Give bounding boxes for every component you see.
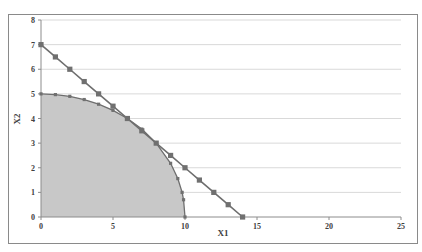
y-axis-title: X2 xyxy=(12,113,22,124)
data-marker xyxy=(96,91,101,96)
data-marker xyxy=(168,153,173,158)
y-tick-label: 6 xyxy=(31,65,35,74)
y-tick-label: 5 xyxy=(31,90,35,99)
y-tick-label: 2 xyxy=(31,164,35,173)
data-marker xyxy=(67,67,72,72)
x-axis-title: X1 xyxy=(218,228,229,238)
data-marker xyxy=(82,79,87,84)
x-tick-label: 20 xyxy=(325,222,333,231)
y-tick-label: 7 xyxy=(31,41,35,50)
data-marker xyxy=(139,128,144,133)
data-marker xyxy=(182,165,187,170)
chart: 0123456780510152025 X1 X2 xyxy=(0,0,422,252)
data-marker xyxy=(182,198,185,201)
x-tick-label: 5 xyxy=(111,222,115,231)
data-marker xyxy=(110,104,115,109)
data-marker xyxy=(181,191,184,194)
data-marker xyxy=(197,177,202,182)
data-marker xyxy=(226,202,231,207)
y-tick-label: 1 xyxy=(31,188,35,197)
data-marker xyxy=(54,93,57,96)
x-tick-label: 25 xyxy=(397,222,405,231)
data-marker xyxy=(68,95,71,98)
y-tick-label: 4 xyxy=(31,115,35,124)
data-marker xyxy=(240,214,245,219)
x-tick-label: 0 xyxy=(39,222,43,231)
data-marker xyxy=(211,190,216,195)
data-marker xyxy=(169,162,172,165)
data-marker xyxy=(39,92,42,95)
data-marker xyxy=(38,42,43,47)
data-marker xyxy=(125,116,130,121)
data-marker xyxy=(183,215,186,218)
data-marker xyxy=(53,54,58,59)
data-marker xyxy=(97,103,100,106)
data-marker xyxy=(154,141,159,146)
y-tick-label: 3 xyxy=(31,139,35,148)
y-tick-label: 0 xyxy=(31,213,35,222)
y-tick-label: 8 xyxy=(31,16,35,25)
data-marker xyxy=(83,98,86,101)
x-tick-label: 10 xyxy=(181,222,189,231)
x-tick-label: 15 xyxy=(253,222,261,231)
data-marker xyxy=(111,109,114,112)
data-marker xyxy=(176,177,179,180)
